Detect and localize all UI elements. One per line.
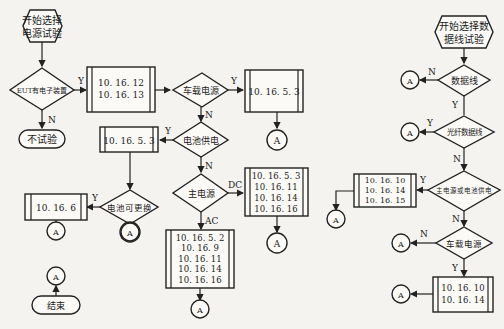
svg-text:10. 16. 12: 10. 16. 12 (98, 78, 144, 88)
svg-text:A: A (273, 136, 281, 146)
svg-text:AC: AC (204, 216, 218, 226)
decision-fiber-dataline: 光纤数据线 (434, 116, 494, 148)
svg-text:光纤数据线: 光纤数据线 (447, 127, 483, 137)
svg-text:N: N (420, 229, 428, 239)
svg-text:结束: 结束 (47, 300, 65, 311)
box-dc: 10. 16. 5. 3 10. 16. 11 10. 16. 14 10. 1… (245, 168, 308, 216)
svg-text:N: N (48, 115, 56, 125)
connector-a: A (47, 222, 65, 240)
svg-text:电源试验: 电源试验 (22, 27, 62, 39)
svg-text:10. 16. 10: 10. 16. 10 (365, 176, 406, 185)
box-ac: 10. 16. 5. 2 10. 16. 9 10. 16. 11 10. 16… (166, 230, 234, 288)
svg-text:电池供电: 电池供电 (183, 135, 219, 146)
decision-main-power: 主电源 (173, 174, 228, 212)
connector-a: A (401, 123, 419, 141)
svg-text:10. 16. 15: 10. 16. 15 (365, 196, 406, 205)
svg-text:N: N (205, 110, 213, 120)
svg-text:A: A (52, 228, 59, 237)
svg-text:10. 16. 13: 10. 16. 13 (98, 90, 144, 100)
svg-text:10. 16. 5. 3: 10. 16. 5. 3 (252, 171, 301, 181)
svg-text:10. 16. 16: 10. 16. 16 (178, 275, 221, 285)
connector-a: A (401, 71, 419, 89)
connector-a: A (392, 285, 410, 303)
svg-text:Y: Y (164, 126, 172, 136)
svg-text:A: A (397, 240, 404, 249)
connector-a: A (191, 300, 209, 318)
svg-text:10. 16. 6: 10. 16. 6 (36, 203, 76, 213)
svg-text:主电源: 主电源 (188, 188, 215, 199)
svg-text:Y: Y (230, 76, 238, 86)
svg-text:车载电源: 车载电源 (446, 239, 482, 249)
connector-a: A (392, 234, 410, 252)
svg-text:主电源或电池供电: 主电源或电池供电 (436, 186, 492, 195)
box-vehicle-10-16-5-3: 10. 16. 5. 3 (245, 70, 303, 112)
svg-text:10. 16. 14: 10. 16. 14 (365, 186, 406, 195)
connector-a: A (267, 130, 287, 150)
no-test-terminal: 不试验 (19, 130, 65, 148)
svg-text:10. 16. 14: 10. 16. 14 (178, 264, 221, 274)
decision-battery-replaceable: 电池可更换 (100, 190, 158, 224)
svg-text:车载电源: 车载电源 (183, 85, 219, 96)
start-dataline-test: 开始选择数 据线试验 (435, 16, 493, 48)
svg-text:10. 16. 14: 10. 16. 14 (441, 295, 484, 305)
svg-text:不试验: 不试验 (27, 133, 57, 145)
svg-text:A: A (52, 273, 59, 282)
connector-a: A (327, 210, 345, 228)
flowchart: 开始选择 电源试验 EUT有电子装置 Y N 不试验 10. 16. 12 10… (0, 0, 504, 329)
svg-text:10. 16. 9: 10. 16. 9 (181, 243, 219, 253)
svg-text:10. 16. 11: 10. 16. 11 (254, 182, 297, 192)
svg-text:10. 16. 16: 10. 16. 16 (254, 204, 297, 214)
decision-eut-electronic: EUT有电子装置 (10, 68, 74, 110)
svg-text:开始选择: 开始选择 (22, 14, 62, 26)
svg-text:据线试验: 据线试验 (444, 33, 484, 45)
box-main-or-battery: 10. 16. 10 10. 16. 14 10. 16. 15 (354, 174, 416, 207)
svg-text:10. 16. 5. 3: 10. 16. 5. 3 (103, 136, 155, 146)
box-10-16-12-13: 10. 16. 12 10. 16. 13 (87, 67, 155, 112)
svg-text:Y: Y (77, 76, 85, 86)
box-10-16-6: 10. 16. 6 (25, 194, 87, 220)
svg-text:10. 16. 11: 10. 16. 11 (178, 254, 221, 264)
end-terminal: 结束 (32, 296, 80, 314)
svg-text:A: A (196, 306, 203, 315)
svg-text:A: A (406, 77, 413, 86)
svg-text:EUT有电子装置: EUT有电子装置 (17, 86, 68, 95)
decision-battery-powered: 电池供电 (173, 122, 228, 157)
box-battery-10-16-5-3: 10. 16. 5. 3 (100, 127, 158, 152)
svg-text:N: N (453, 154, 461, 164)
svg-text:N: N (452, 214, 460, 224)
svg-text:Y: Y (91, 193, 99, 203)
svg-text:A: A (126, 229, 133, 238)
decision-main-or-battery: 主电源或电池供电 (428, 171, 500, 211)
svg-text:N: N (205, 161, 213, 171)
svg-text:10. 16. 5. 3: 10. 16. 5. 3 (248, 87, 300, 97)
connector-a: A (267, 233, 287, 253)
svg-text:A: A (406, 129, 413, 138)
svg-text:开始选择数: 开始选择数 (439, 20, 489, 32)
svg-text:电池可更换: 电池可更换 (107, 203, 152, 213)
svg-text:10. 16. 5. 2: 10. 16. 5. 2 (176, 233, 225, 243)
svg-text:数据线: 数据线 (451, 75, 478, 86)
connector-a: A (47, 267, 65, 285)
svg-text:Y: Y (426, 118, 434, 128)
start-power-test: 开始选择 电源试验 (22, 10, 62, 42)
connector-a: A (121, 223, 139, 241)
decision-vehicle-power: 车载电源 (173, 73, 228, 107)
svg-text:A: A (397, 291, 404, 300)
svg-text:Y: Y (451, 100, 459, 110)
svg-text:DC: DC (228, 180, 242, 190)
svg-text:Y: Y (451, 263, 459, 273)
decision-vehicle-power-right: 车载电源 (436, 227, 492, 259)
svg-text:10. 16. 14: 10. 16. 14 (254, 193, 297, 203)
svg-text:A: A (332, 216, 339, 225)
svg-text:10. 16. 10: 10. 16. 10 (441, 283, 484, 293)
decision-dataline: 数据线 (438, 65, 490, 96)
svg-text:N: N (428, 67, 436, 77)
box-vehicle-right: 10. 16. 10 10. 16. 14 (433, 277, 493, 312)
svg-text:A: A (273, 239, 281, 249)
svg-text:Y: Y (419, 175, 427, 185)
